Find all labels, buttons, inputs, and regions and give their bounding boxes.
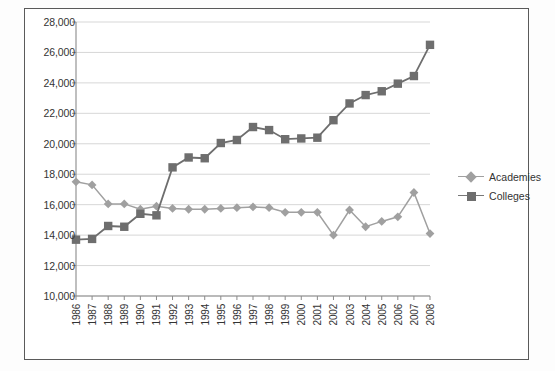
x-axis-tick-label: 1995 bbox=[216, 304, 227, 325]
x-axis-tick-label: 1997 bbox=[248, 304, 259, 325]
x-axis-tick-label: 1990 bbox=[135, 304, 146, 325]
x-axis-tick-label: 2006 bbox=[393, 304, 404, 325]
legend-item-academies[interactable]: Academies bbox=[458, 167, 541, 186]
square-marker-icon bbox=[467, 192, 476, 201]
legend-line-academies bbox=[458, 176, 484, 177]
x-axis-tick-label: 2005 bbox=[377, 304, 388, 325]
x-axis-tick-label: 1987 bbox=[87, 304, 98, 325]
x-axis-tick-label: 2001 bbox=[312, 304, 323, 325]
x-axis-tick-label: 1986 bbox=[71, 304, 82, 325]
x-axis-tick-label: 2002 bbox=[328, 304, 339, 325]
x-axis-tick-label: 2004 bbox=[361, 304, 372, 325]
diamond-marker-icon bbox=[465, 171, 476, 182]
chart-figure: 10,00012,00014,00016,00018,00020,00022,0… bbox=[0, 0, 555, 371]
x-axis-tick-label: 1992 bbox=[168, 304, 179, 325]
x-axis-tick-label: 1999 bbox=[280, 304, 291, 325]
x-axis-tick-label: 1994 bbox=[200, 304, 211, 325]
x-axis-tick-label: 1991 bbox=[151, 304, 162, 325]
x-axis-tick-label: 1989 bbox=[119, 304, 130, 325]
legend-line-colleges bbox=[458, 195, 484, 196]
legend-label-academies: Academies bbox=[489, 171, 541, 183]
legend-item-colleges[interactable]: Colleges bbox=[458, 186, 541, 205]
x-axis-tick-label: 2003 bbox=[345, 304, 356, 325]
x-axis-tick-label: 1996 bbox=[232, 304, 243, 325]
x-axis-tick-label: 1988 bbox=[103, 304, 114, 325]
x-axis-tick-label: 1998 bbox=[264, 304, 275, 325]
x-axis-tick-label: 1993 bbox=[184, 304, 195, 325]
x-axis-tick-label: 2007 bbox=[409, 304, 420, 325]
x-axis-tick-label: 2008 bbox=[425, 304, 436, 325]
x-axis-tick-label: 2000 bbox=[296, 304, 307, 325]
legend-label-colleges: Colleges bbox=[489, 190, 530, 202]
chart-legend: Academies Colleges bbox=[458, 167, 541, 205]
